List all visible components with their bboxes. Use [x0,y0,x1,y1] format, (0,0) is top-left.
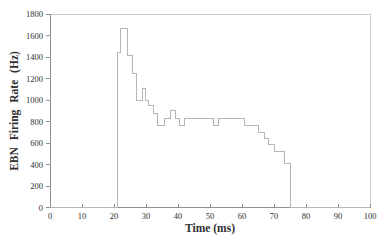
y-tick-label: 800 [30,117,43,127]
plot-frame [50,14,370,208]
y-tick-label: 400 [30,160,43,170]
ebn-firing-rate-figure: 0102030405060708090100020040060080010001… [0,0,392,246]
y-tick-label: 1200 [26,74,43,84]
y-tick-label: 600 [30,138,43,148]
axis-ticks: 0102030405060708090100020040060080010001… [26,9,376,221]
x-tick-label: 10 [78,211,87,221]
y-axis-title: EBN Firing Rate (Hz) [8,51,21,171]
x-tick-label: 20 [110,211,119,221]
firing-rate-step-line [50,29,370,208]
y-tick-label: 1800 [26,9,43,19]
x-tick-label: 70 [270,211,279,221]
y-tick-label: 0 [39,203,43,213]
x-tick-label: 40 [174,211,183,221]
x-tick-label: 30 [142,211,151,221]
y-tick-label: 1600 [26,31,43,41]
y-tick-label: 200 [30,181,43,191]
x-axis-title: Time (ms) [185,222,235,235]
y-tick-label: 1000 [26,95,43,105]
x-tick-label: 90 [334,211,343,221]
ebn-firing-rate-chart: 0102030405060708090100020040060080010001… [0,0,392,246]
x-tick-label: 50 [206,211,215,221]
x-tick-label: 100 [364,211,377,221]
x-tick-label: 0 [48,211,52,221]
plot-axes-left-bottom [50,14,370,208]
y-tick-label: 1400 [26,52,43,62]
x-tick-label: 80 [302,211,311,221]
plot-frame-top-right [50,14,370,208]
series-EBN-firing-rate [50,29,370,208]
x-tick-label: 60 [238,211,247,221]
